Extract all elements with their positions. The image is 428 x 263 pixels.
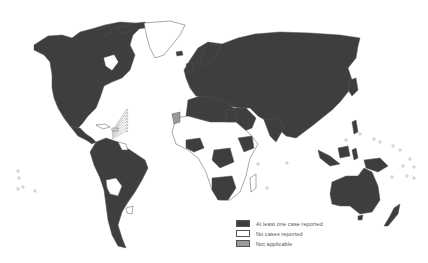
region-tasmania	[358, 215, 363, 220]
region-indonesia	[318, 146, 388, 172]
legend-label-no-cases: No cases reported	[256, 231, 303, 237]
legend-label-not-applicable: Not applicable	[256, 241, 292, 247]
legend-swatch-no-cases	[236, 230, 250, 237]
map-legend: At least one case reported No cases repo…	[236, 219, 323, 249]
legend-item-reported: At least one case reported	[236, 219, 323, 228]
region-africa-sudan	[226, 110, 236, 122]
legend-swatch-reported	[236, 220, 250, 227]
region-madagascar	[250, 174, 256, 192]
region-iceland	[176, 51, 183, 56]
world-map	[0, 0, 428, 263]
region-philippines	[352, 120, 358, 134]
region-uruguay	[126, 206, 133, 214]
caribbean-island-markers	[126, 109, 128, 132]
region-new-zealand	[384, 204, 400, 226]
legend-item-no-cases: No cases reported	[236, 229, 323, 238]
caribbean-callouts	[112, 110, 126, 139]
region-india	[264, 118, 284, 142]
region-north-america	[34, 22, 140, 128]
legend-label-reported: At least one case reported	[256, 221, 323, 227]
region-australia	[330, 168, 380, 214]
region-western-sahara	[172, 112, 180, 124]
region-central-america	[70, 126, 96, 144]
legend-swatch-not-applicable	[236, 240, 250, 247]
legend-item-not-applicable: Not applicable	[236, 239, 323, 248]
